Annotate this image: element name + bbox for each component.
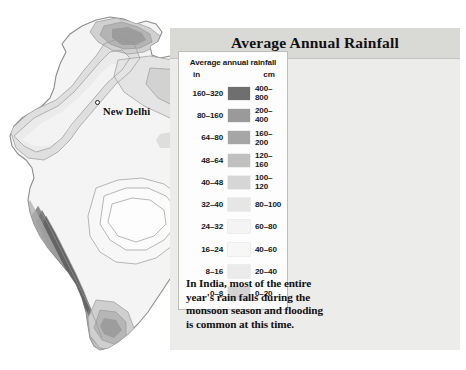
legend-swatch — [228, 243, 250, 256]
legend-swatch — [228, 198, 250, 211]
legend-row-cm: 160–200 — [255, 129, 283, 147]
legend-swatch — [228, 154, 250, 167]
legend-row-in: 24–32 — [183, 222, 223, 231]
legend-row: 24–3260–80 — [183, 216, 283, 238]
legend-title: Average annual rainfall — [183, 57, 283, 68]
legend-row-in: 8–16 — [183, 267, 223, 276]
legend-row-in: 32–40 — [183, 200, 223, 209]
caption-line-1: In India, most of the entire — [186, 277, 351, 291]
legend-row-in: 48–64 — [183, 156, 223, 165]
new-delhi-dot — [95, 100, 100, 105]
legend-row-cm: 200–400 — [255, 106, 283, 124]
legend-unit-cm: cm — [263, 69, 275, 80]
legend-row: 48–64120–160 — [183, 149, 283, 171]
legend-row: 160–320400–800 — [183, 82, 283, 104]
legend-row-in: 64–80 — [183, 133, 223, 142]
legend-row-cm: 120–160 — [255, 151, 283, 169]
legend-row-cm: 40–60 — [255, 245, 283, 254]
legend-row-in: 80–160 — [183, 111, 223, 120]
legend-row: 64–80160–200 — [183, 127, 283, 149]
legend-row: 32–4080–100 — [183, 193, 283, 215]
map-caption: In India, most of the entire year's rain… — [186, 277, 351, 331]
legend-swatch — [228, 87, 250, 100]
legend-row-cm: 60–80 — [255, 222, 283, 231]
legend-row-in: 16–24 — [183, 245, 223, 254]
new-delhi-label: New Delhi — [103, 106, 150, 117]
caption-line-3: monsoon season and flooding — [186, 304, 351, 318]
legend-swatch — [228, 176, 250, 189]
legend-row-in: 160–320 — [183, 89, 223, 98]
legend-swatch — [228, 109, 250, 122]
rainfall-legend: Average annual rainfall in cm 160–320400… — [178, 51, 288, 310]
legend-swatch — [228, 220, 250, 233]
legend-row: 16–2440–60 — [183, 238, 283, 260]
legend-row-cm: 400–800 — [255, 84, 283, 102]
caption-line-4: is common at this time. — [186, 318, 351, 332]
legend-row-cm: 100–120 — [255, 173, 283, 191]
legend-swatch — [228, 131, 250, 144]
legend-row-cm: 80–100 — [255, 200, 283, 209]
legend-unit-in: in — [193, 69, 200, 80]
legend-row-cm: 20–40 — [255, 267, 283, 276]
legend-row: 80–160200–400 — [183, 104, 283, 126]
legend-rows: 160–320400–80080–160200–40064–80160–2004… — [183, 82, 283, 305]
legend-unit-headers: in cm — [183, 68, 283, 80]
rainfall-map-figure: New Delhi Average Annual Rainfall Averag… — [0, 0, 466, 370]
caption-line-2: year's rain falls during the — [186, 291, 351, 305]
legend-row-in: 40–48 — [183, 178, 223, 187]
legend-row: 40–48100–120 — [183, 171, 283, 193]
